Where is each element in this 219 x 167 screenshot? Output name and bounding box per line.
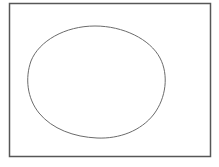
drawing-canvas	[0, 0, 219, 167]
figure-svg	[0, 0, 219, 167]
canvas-background	[0, 0, 219, 167]
